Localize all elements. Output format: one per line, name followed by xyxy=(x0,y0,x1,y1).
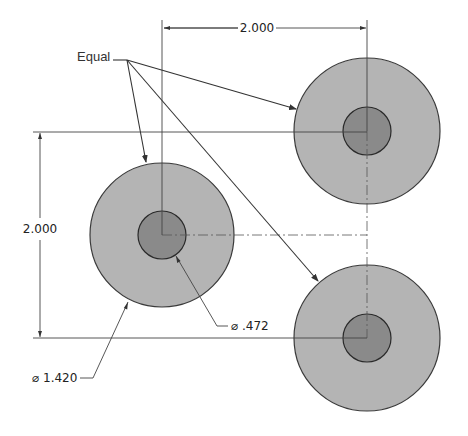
outer-diameter-value[interactable]: ⌀ 1.420 xyxy=(32,371,77,385)
equal-label[interactable]: Equal xyxy=(77,49,110,64)
diameter-outer-callout[interactable]: ⌀ 1.420 xyxy=(32,302,128,385)
equal-leader-left xyxy=(127,60,146,162)
dimension-vertical-value[interactable]: 2.000 xyxy=(23,222,57,236)
sketch-drawing: 2.000 2.000 Equal ⌀ .472 ⌀ 1.420 xyxy=(0,0,468,436)
equal-leader-top-right xyxy=(127,60,296,109)
dimension-horizontal[interactable]: 2.000 xyxy=(164,21,366,35)
inner-diameter-value[interactable]: ⌀ .472 xyxy=(231,319,269,333)
dimension-horizontal-value[interactable]: 2.000 xyxy=(240,21,274,35)
outer-diameter-arrow xyxy=(124,302,128,310)
dimension-vertical[interactable]: 2.000 xyxy=(22,133,58,337)
outer-diameter-leader xyxy=(80,302,128,378)
